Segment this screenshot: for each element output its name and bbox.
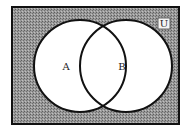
universe-label: U (160, 18, 168, 29)
set-b-label: B (118, 61, 125, 72)
set-a-label: A (61, 61, 70, 72)
venn-diagram: U A B (0, 0, 190, 136)
